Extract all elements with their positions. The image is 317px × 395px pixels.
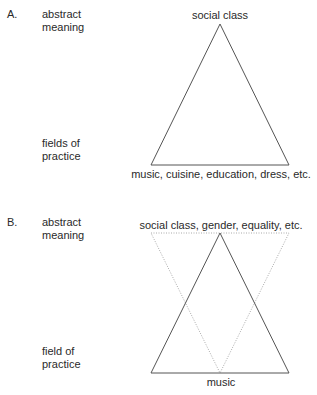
- panel-a-practice-label-line1: fields of: [42, 137, 80, 150]
- panel-a-apex-label: social class: [192, 9, 248, 22]
- panel-b-base-label: music: [207, 376, 236, 389]
- panel-a-base-label: music, cuisine, education, dress, etc.: [131, 168, 311, 181]
- panel-a-abstract-label-line2: meaning: [42, 21, 84, 34]
- panel-b-letter: B.: [7, 216, 17, 229]
- panel-b-triangle: [151, 233, 289, 373]
- panel-b-practice-label-line1: field of: [42, 345, 74, 358]
- panel-b-top-label: social class, gender, equality, etc.: [139, 219, 302, 232]
- panel-b-practice-label-line2: practice: [42, 358, 81, 371]
- panel-a-abstract-label-line1: abstract: [42, 8, 81, 21]
- panel-a-letter: A.: [7, 8, 17, 21]
- panel-a-practice-label-line2: practice: [42, 150, 81, 163]
- diagram-canvas: [0, 0, 317, 395]
- panel-b-abstract-label-line2: meaning: [42, 229, 84, 242]
- panel-a-triangle: [151, 24, 289, 165]
- panel-b-abstract-label-line1: abstract: [42, 216, 81, 229]
- panel-b-inverted-triangle: [151, 233, 289, 373]
